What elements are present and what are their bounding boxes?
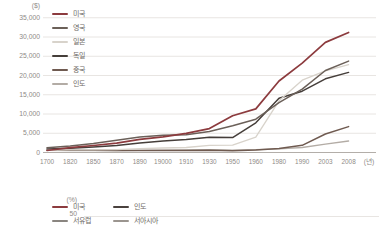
- legend-item: 일본: [52, 35, 85, 49]
- legend-swatch: [113, 220, 129, 222]
- y-tick-label: 0: [4, 149, 40, 157]
- y-tick-label: 15,000: [4, 91, 40, 99]
- legend-swatch: [52, 41, 68, 43]
- main-chart-legend: 미국영국일본독일중국인도: [52, 7, 85, 91]
- legend-swatch: [52, 69, 68, 71]
- series-line-영국: [47, 61, 349, 148]
- legend-swatch: [52, 27, 68, 29]
- legend-label: 독일: [73, 52, 85, 60]
- legend-item: 중국: [52, 63, 85, 77]
- y-tick-label: 20,000: [4, 72, 40, 80]
- legend-item: 인도: [113, 200, 158, 214]
- legend-item: 서아시아: [113, 214, 158, 228]
- x-axis-unit-label: (년): [357, 158, 381, 166]
- legend-item: 미국: [52, 200, 113, 214]
- y-axis-unit-label: ($): [4, 2, 40, 10]
- legend-label: 중국: [73, 66, 85, 74]
- series-line-일본: [47, 65, 349, 151]
- legend-label: 영국: [73, 24, 85, 32]
- legend-item: 미국: [52, 7, 85, 21]
- legend-label: 서유럽: [73, 217, 91, 225]
- legend-swatch: [52, 206, 68, 208]
- legend-item: 영국: [52, 21, 85, 35]
- legend-item: 인도: [52, 77, 85, 91]
- y-tick-label: 30,000: [4, 33, 40, 41]
- legend-item: 독일: [52, 49, 85, 63]
- y-tick-label: 5,000: [4, 129, 40, 137]
- y-tick-label: 35,000: [4, 14, 40, 22]
- legend-swatch: [52, 220, 68, 222]
- legend-label: 서아시아: [134, 217, 158, 225]
- legend-label: 일본: [73, 38, 85, 46]
- legend-swatch: [113, 206, 129, 208]
- legend-label: 인도: [134, 203, 146, 211]
- legend-label: 인도: [73, 80, 85, 88]
- legend-swatch: [52, 55, 68, 57]
- legend-label: 미국: [73, 203, 85, 211]
- legend-swatch: [52, 13, 68, 15]
- y-tick-label: 25,000: [4, 52, 40, 60]
- y-tick-label: 10,000: [4, 110, 40, 118]
- second-chart-legend: 미국인도서유럽서아시아: [52, 200, 158, 228]
- legend-item: 서유럽: [52, 214, 113, 228]
- legend-label: 미국: [73, 10, 85, 18]
- legend-swatch: [52, 83, 68, 85]
- chart-figure: ($) 35,00030,00025,00020,00015,00010,000…: [0, 0, 383, 231]
- series-line-독일: [47, 72, 349, 149]
